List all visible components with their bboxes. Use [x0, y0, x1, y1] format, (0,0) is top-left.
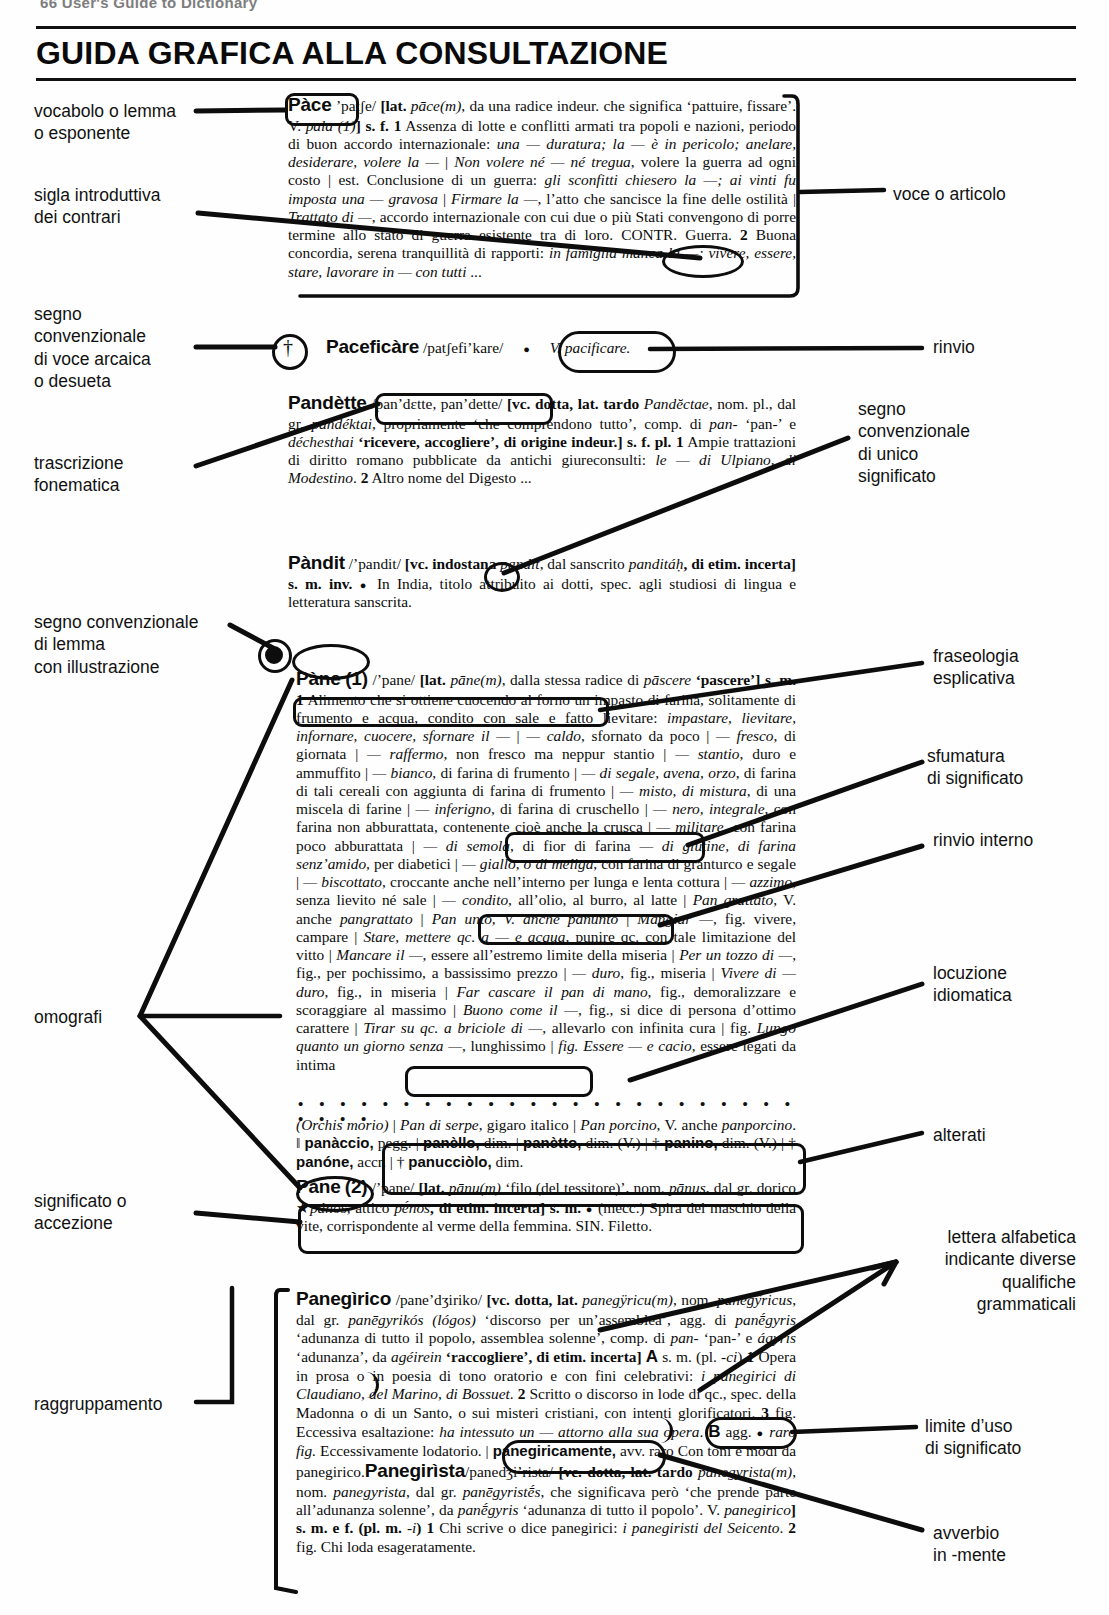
dagger-icon: † — [283, 335, 293, 361]
ex-segale: — di segale, avena, orzo — [582, 764, 736, 781]
etym-nom: panegÿricus — [717, 1291, 792, 1308]
etym-3: ‘pascere’] s. m. — [691, 671, 796, 688]
alterato-panino: panino, — [664, 1134, 717, 1151]
pron-pace: ’patʃe/ — [336, 97, 376, 114]
etym-2: , nom. — [673, 1291, 717, 1308]
ex-tirar: Tirar su qc. a briciole di — — [363, 1019, 542, 1036]
locuzione-idiomatica-text: fig. Essere — e cacio, — [558, 1037, 695, 1054]
orchis-morio: (Orchis morio) — [296, 1116, 389, 1133]
pan-di-serpe: Pan di serpe — [400, 1116, 479, 1133]
ex-duro: — duro — [572, 964, 620, 981]
label-sfumatura-di-significato: sfumatura di significato — [927, 745, 1023, 790]
cont-2: , gigaro italico | — [479, 1116, 581, 1133]
entry-pace: Pàce ’patʃe/ [lat. pāce(m), da una radic… — [288, 94, 796, 281]
etym-4: ‘discorso per un’assemblea’, agg. di — [476, 1311, 736, 1328]
label-raggruppamento: raggruppamento — [34, 1393, 162, 1415]
etym-open: [lat. — [380, 97, 410, 114]
etym-2: ‘filo (del tessitore)’, nom. — [501, 1179, 669, 1196]
bar: | — [413, 910, 432, 927]
label-sigla-introduttiva: sigla introduttiva dei contrari — [34, 184, 160, 229]
b-grammar: agg. — [721, 1423, 757, 1440]
ex-giallo: — giallo, o di meliga — [462, 855, 593, 872]
etym-5: , di etim. incerta] s. m. — [430, 1199, 586, 1216]
label-vocabolo-o-lemma: vocabolo o lemma o esponente — [34, 100, 176, 145]
t-condito: , all’olio, al burro, al latte | — [508, 891, 693, 908]
pan-porcino: Pan porcino — [580, 1116, 656, 1133]
etym-pascere: pāscere — [644, 671, 691, 688]
t-caldo: , sfornato da poco | — [581, 727, 716, 744]
title-rule-top — [36, 26, 1076, 29]
title-rule-bottom — [36, 78, 1076, 81]
ex-bianco: — bianco — [372, 764, 432, 781]
homograph-number-2: (2) — [345, 1176, 368, 1197]
etym-ref: pala (1) — [306, 117, 356, 134]
alt-4-gloss: dim. (V.) | † — [718, 1134, 796, 1151]
sense-2-number: 2 — [788, 1519, 796, 1536]
ex-semola: — di semola — [423, 837, 510, 854]
etym-4: , attico — [347, 1199, 394, 1216]
etym: [vc. dotta, lat. tardo — [502, 395, 643, 412]
ex-raffermo: — raffermo — [367, 745, 443, 762]
etym-5: ‘ricevere, accogliere’, di origine indeu… — [354, 433, 676, 450]
t-glutine: per diabetici | — [370, 855, 462, 872]
t-biscottato: , croccante anche nell’interno per lunga… — [382, 873, 731, 890]
alt-6-gloss: dim. — [492, 1153, 524, 1170]
label-fraseologia-esplicativa: fraseologia esplicativa — [933, 645, 1019, 690]
etym-plural: -i — [407, 1519, 416, 1536]
etym-gr-1: pános — [310, 1199, 347, 1216]
label-segno-unico-significato: segno convenzionale di unico significato — [858, 398, 1076, 488]
ex-condito: — condito — [442, 891, 508, 908]
alterato-panucciolo: panucciòlo, — [408, 1153, 491, 1170]
label-voce-o-articolo: voce o articolo — [893, 183, 1006, 205]
pron-pane-1: /’pane/ — [372, 671, 415, 688]
entry-pane-1: Pàne (1) /’pane/ [lat. pāne(m), dalla st… — [296, 668, 796, 1074]
headword-pane-1: Pàne — [296, 668, 341, 689]
sense-1-example-4: Firmare la — — [451, 190, 537, 207]
bar: | — [510, 727, 526, 744]
alt-5-gloss: accr. | † — [354, 1153, 409, 1170]
ex-mangiar: Mangiar — — [637, 910, 713, 927]
label-segno-lemma-illustrazione: segno convenzionale di lemma con illustr… — [34, 611, 198, 678]
etym-gr: panēgyristḗs — [463, 1483, 541, 1500]
headword-pane-2: Pàne — [296, 1176, 341, 1197]
entry-pane-2: Pàne (2) /’pane/ [lat. pānu(m) ‘filo (de… — [296, 1176, 796, 1235]
label-trascrizione-fonematica: trascrizione fonematica — [34, 452, 123, 497]
grammar-letter-b: B — [708, 1422, 720, 1441]
label-alterati: alterati — [933, 1124, 986, 1146]
ex-stantio: — stantio — [675, 745, 739, 762]
entry-pandit: Pàndit /’pandit/ [vc. indostana pandit, … — [288, 552, 796, 611]
etym-pan: pan- — [670, 1329, 698, 1346]
etym-pan: pan- — [709, 415, 737, 432]
pron-pane-2: /’pane/ — [372, 1179, 415, 1196]
etym: [vc. dotta, lat. — [482, 1291, 582, 1308]
sense-2-text: Altro nome del Digesto ... — [368, 469, 531, 486]
etym-gr-2: panḗgyris — [735, 1311, 796, 1328]
entry-panegirico: Panegìrico /pane’dʒiriko/ [vc. dotta, la… — [296, 1288, 796, 1556]
label-rinvio-interno: rinvio interno — [933, 829, 1033, 851]
etym-7: ‘adunanza’, da — [296, 1348, 391, 1365]
headword-panegirista: Panegirìsta — [365, 1460, 465, 1481]
etym-lat: Pandĕctae — [644, 395, 709, 412]
headword-pace: Pàce — [288, 94, 332, 115]
label-limite-duso: limite d’uso di significato — [925, 1415, 1021, 1460]
label-avverbio-in-mente: avverbio in -mente — [933, 1522, 1006, 1567]
sense-1-text: Chi scrive o dice panegirici: — [434, 1519, 622, 1536]
contr-rest: Guerra. — [677, 226, 740, 243]
cont-3: , V. anche — [657, 1116, 722, 1133]
alterato-panaccio: panàccio, — [304, 1134, 373, 1151]
pron-paceficare: /patʃefi’kare/ — [423, 339, 503, 356]
etym-gr-2: pḗnos — [394, 1199, 430, 1216]
sense-1-end: . — [779, 1519, 788, 1536]
t-semola: , di fior di farina — [510, 837, 639, 854]
entry-paceficare: Paceficàre /patʃefi’kare/ ● V. pacificar… — [304, 336, 796, 359]
sense-1-example-2: Non volere né — né tregua — [454, 153, 630, 170]
t-bianco: , di farina di frumento | — [432, 764, 581, 781]
ex-fresco: — fresco — [716, 727, 773, 744]
label-segno-voce-arcaica: segno convenzionale di voce arcaica o de… — [34, 303, 151, 393]
label-omografi: omografi — [34, 1006, 102, 1028]
ex-mancare: Mancare il — — [336, 946, 422, 963]
entry-pandette: Pandètte /pan’dɛtte, pan’dette/ [vc. dot… — [288, 392, 796, 488]
grammar-letter-a: A — [646, 1347, 658, 1366]
etym: [lat. — [415, 671, 450, 688]
alterato-panetto: panètto, — [523, 1134, 581, 1151]
